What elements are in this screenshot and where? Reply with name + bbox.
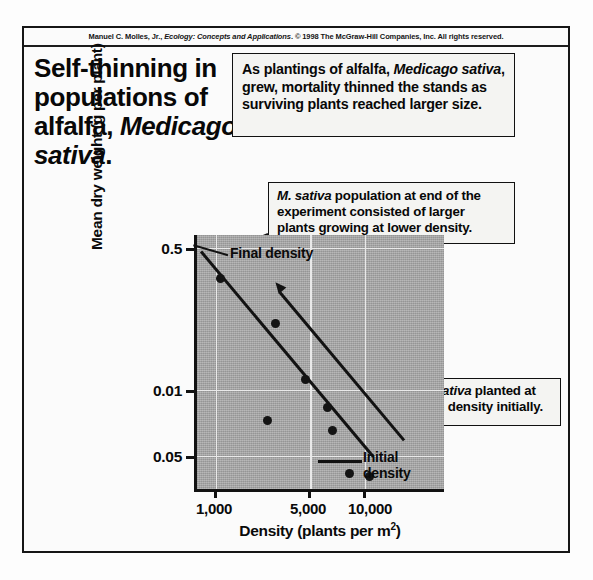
data-point [328, 426, 337, 435]
slide-canvas: Manuel C. Molles, Jr., Ecology: Concepts… [0, 0, 593, 580]
title-line-2: populations of [34, 83, 239, 112]
y-axis-tick-label: 0.05 [124, 448, 182, 466]
page-title: Self-thinning in populations of alfalfa,… [34, 54, 239, 170]
callout-1-species: Medicago sativa [394, 61, 501, 77]
y-axis-tick [186, 390, 195, 393]
y-axis-tick-label: 0.5 [134, 240, 182, 258]
y-axis-line [194, 235, 197, 491]
copyright-book-title: Ecology: Concepts and Applications [164, 32, 291, 41]
x-axis-title: Density (plants per m2) [170, 521, 470, 540]
callout-box-thinning: As plantings of alfalfa, Medicago sativa… [232, 53, 515, 137]
callout-2-species: M. sativa [277, 188, 331, 203]
x-axis-tick-label: 10,000 [328, 500, 412, 517]
title-line-1: Self-thinning in [34, 54, 239, 83]
callout-1-text-a: As plantings of alfalfa, [242, 61, 394, 77]
gridline-vertical [310, 235, 312, 489]
annotation-initial-density: Initial density [363, 450, 411, 481]
copyright-rights: . © 1998 The McGraw-Hill Companies, Inc.… [291, 32, 504, 41]
title-line-4: sativa. [34, 141, 239, 170]
data-point [301, 375, 310, 384]
x-axis-tick-label: 1,000 [176, 500, 252, 517]
y-axis-title: Mean dry weight (g per plant) [88, 20, 106, 250]
initial-density-pointer [318, 460, 362, 463]
title-line-3: alfalfa, Medicago [34, 112, 239, 141]
y-axis-tick [186, 456, 195, 459]
x-axis-tick [214, 489, 217, 498]
self-thinning-scatter-chart: 0.5 0.01 0.05 1,000 5,000 10,000 Mean dr… [100, 222, 500, 532]
y-axis-tick [186, 248, 195, 251]
x-axis-tick [363, 489, 366, 498]
x-axis-line [194, 489, 444, 492]
y-axis-tick-label: 0.01 [124, 382, 182, 400]
data-point [216, 274, 225, 283]
annotation-final-density: Final density [230, 246, 313, 262]
x-axis-tick [308, 489, 311, 498]
